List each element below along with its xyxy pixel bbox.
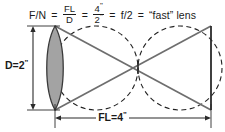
- formula-conclusion: “fast” lens: [149, 10, 196, 21]
- lens-element: [47, 26, 64, 110]
- formula-equals-3: =: [109, 10, 115, 21]
- formula-fraction-4-over-2: 4" 2": [93, 4, 103, 26]
- formula-result: f/2: [121, 10, 133, 21]
- diameter-label-unit: ": [25, 58, 29, 67]
- focal-length-label-text: FL=4: [98, 111, 123, 123]
- fraction1-numerator: FL: [63, 4, 76, 14]
- fraction1-denominator: D: [63, 15, 76, 25]
- focal-length-label: FL=4": [0, 112, 225, 123]
- diameter-arrowhead-up: [30, 26, 35, 32]
- focal-length-label-unit: ": [123, 110, 127, 119]
- diameter-label: D=2": [3, 60, 30, 71]
- formula-equals-1: =: [51, 10, 57, 21]
- formula-equals-2: =: [82, 10, 88, 21]
- fraction2-numerator-unit: ": [100, 0, 103, 9]
- formula-equals-4: =: [138, 10, 144, 21]
- diameter-label-inner: D=2": [3, 59, 30, 71]
- fraction2-denominator-unit: ": [100, 12, 103, 21]
- fnumber-formula: F/N = FL D = 4" 2" = f/2 = “fast” lens: [0, 4, 225, 26]
- formula-lead: F/N: [29, 10, 46, 21]
- fraction2-denominator: 2": [93, 15, 103, 25]
- right-dashed-circle: [138, 26, 222, 110]
- lens-fnumber-figure: F/N = FL D = 4" 2" = f/2 = “fast” lens D…: [0, 0, 225, 132]
- left-dashed-circle: [54, 26, 138, 110]
- diameter-arrowhead-down: [30, 104, 35, 110]
- formula-fraction-fl-over-d: FL D: [63, 4, 76, 26]
- diameter-label-text: D=2: [5, 59, 25, 71]
- focal-length-label-inner: FL=4": [96, 111, 129, 123]
